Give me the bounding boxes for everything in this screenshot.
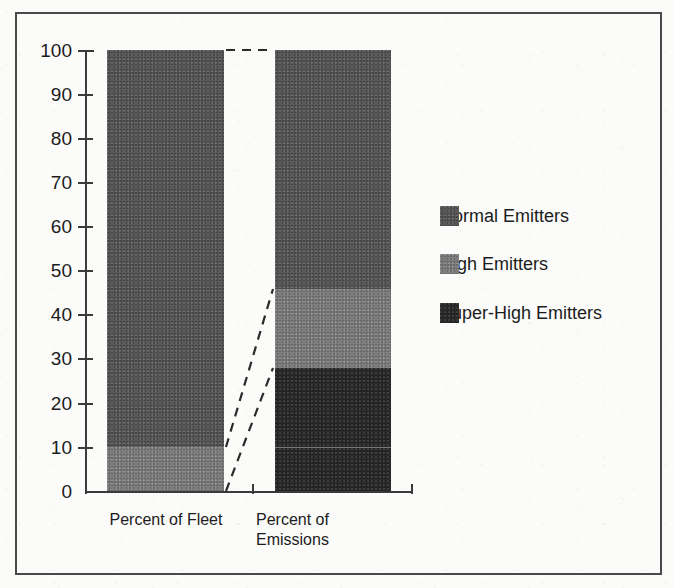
bar-percent-of-emissions (275, 50, 391, 491)
bar-segment-emissions-high (275, 289, 391, 368)
bar-segment-emissions-superhigh (275, 368, 391, 491)
x-tick-mark-middle (252, 484, 254, 494)
x-axis-label-fleet-line1: Percent of Fleet (86, 510, 246, 530)
legend-label-normal-emitters: Normal Emitters (440, 207, 569, 225)
x-tick-mark-left (85, 484, 87, 494)
x-axis-label-percent-of-fleet: Percent of Fleet (86, 510, 246, 530)
scan-gridline-artifact (275, 447, 391, 448)
x-axis-label-emissions-line1: Percent of (256, 510, 416, 530)
y-tick-mark-50 (78, 270, 93, 272)
legend-item-high-emitters[interactable]: High Emitters (440, 255, 548, 273)
legend-swatch-normal-emitters-icon (440, 206, 459, 226)
x-tick-mark-right (411, 484, 413, 494)
y-tick-mark-60 (78, 226, 93, 228)
bar-segment-fleet-normal (107, 50, 224, 447)
connector-fleet10-to-emissions46 (226, 289, 273, 447)
y-tick-mark-100 (78, 50, 94, 52)
y-tick-mark-80 (78, 138, 93, 140)
bar-segment-emissions-normal (275, 50, 391, 289)
legend-item-normal-emitters[interactable]: Normal Emitters (440, 207, 569, 225)
y-tick-label-90: 90 (18, 85, 72, 104)
y-tick-label-10: 10 (18, 438, 72, 457)
chart-page: 100 90 80 70 60 50 40 30 20 10 0 (0, 0, 673, 588)
y-tick-label-0: 0 (18, 482, 72, 501)
x-axis-label-emissions-line2: Emissions (256, 530, 416, 550)
x-axis-line (85, 491, 413, 493)
legend-swatch-high-emitters-icon (440, 254, 459, 274)
y-tick-label-70: 70 (18, 173, 72, 192)
legend-label-super-high-emitters: Super-High Emitters (440, 304, 602, 322)
y-tick-mark-10 (78, 447, 93, 449)
y-tick-mark-90 (78, 94, 93, 96)
y-tick-label-30: 30 (18, 349, 72, 368)
y-tick-label-20: 20 (18, 394, 72, 413)
plot-area: 100 90 80 70 60 50 40 30 20 10 0 (0, 0, 673, 588)
y-tick-mark-70 (78, 182, 93, 184)
bar-segment-fleet-high (107, 447, 224, 491)
y-tick-mark-20 (78, 403, 93, 405)
x-axis-label-percent-of-emissions: Percent of Emissions (256, 510, 416, 550)
y-tick-label-40: 40 (18, 305, 72, 324)
legend-item-super-high-emitters[interactable]: Super-High Emitters (440, 304, 602, 322)
y-tick-mark-30 (78, 358, 93, 360)
y-tick-label-80: 80 (18, 129, 72, 148)
y-tick-label-60: 60 (18, 217, 72, 236)
y-tick-mark-40 (78, 314, 93, 316)
y-tick-label-100: 100 (18, 41, 72, 60)
connector-fleet0-to-emissions28 (226, 368, 273, 491)
y-tick-label-50: 50 (18, 261, 72, 280)
bar-percent-of-fleet (107, 50, 224, 491)
legend-swatch-super-high-emitters-icon (440, 303, 459, 323)
